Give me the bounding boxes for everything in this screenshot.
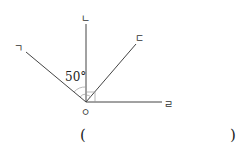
label-nieun: ㄴ (81, 10, 90, 25)
label-vertex: ㅇ (81, 104, 90, 119)
label-rieul: ㄹ (164, 96, 173, 111)
ray-digeut (86, 44, 136, 102)
angle-arc-50 (74, 87, 86, 92)
label-giyeok: ㄱ (14, 40, 23, 55)
angle-arc-inner (80, 94, 86, 97)
answer-paren-open: ( (80, 126, 86, 144)
angle-arc-right (86, 95, 91, 97)
angle-label: 50° (65, 70, 86, 84)
label-digeut: ㄷ (135, 30, 144, 45)
angle-diagram (0, 0, 250, 154)
answer-paren-close: ) (230, 126, 236, 144)
